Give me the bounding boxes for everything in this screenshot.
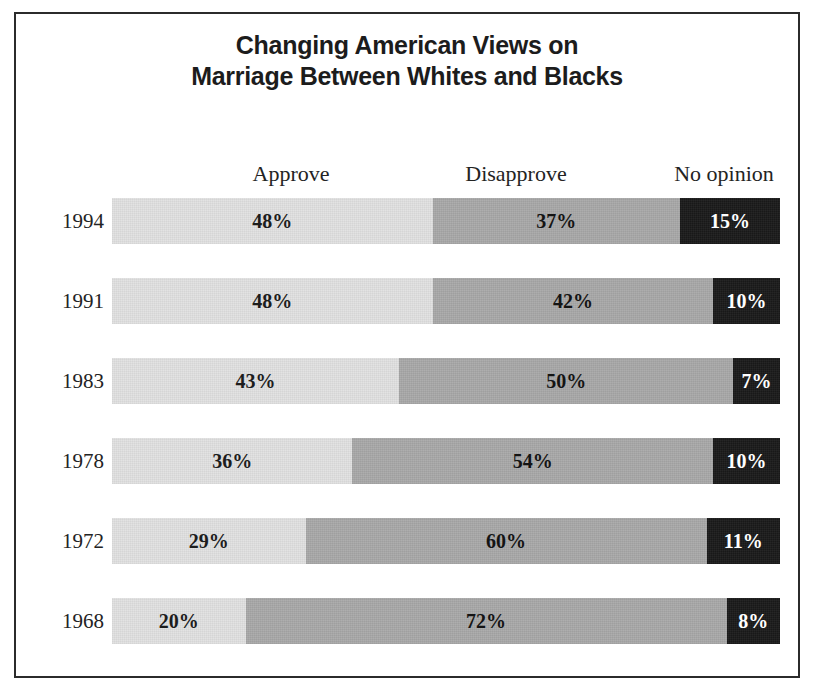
bar-segment-approve: 36%: [112, 438, 352, 484]
bar-value-label: 10%: [727, 450, 767, 473]
stacked-bar: 43%50%7%: [112, 358, 780, 404]
bar-segment-approve: 43%: [112, 358, 399, 404]
stacked-bar: 48%42%10%: [112, 278, 780, 324]
row-label-year: 1994: [28, 198, 104, 244]
bar-value-label: 37%: [536, 210, 576, 233]
bar-row: 197836%54%10%: [16, 438, 802, 484]
row-label-year: 1983: [28, 358, 104, 404]
row-label-year: 1991: [28, 278, 104, 324]
bar-row: 197229%60%11%: [16, 518, 802, 564]
bar-value-label: 29%: [189, 530, 229, 553]
bar-segment-no-opinion: 10%: [713, 438, 780, 484]
stacked-bar: 29%60%11%: [112, 518, 780, 564]
bar-value-label: 48%: [252, 290, 292, 313]
bar-segment-no-opinion: 11%: [707, 518, 780, 564]
bar-value-label: 36%: [212, 450, 252, 473]
bar-segment-no-opinion: 15%: [680, 198, 780, 244]
bar-value-label: 50%: [546, 370, 586, 393]
bar-segment-disapprove: 42%: [433, 278, 714, 324]
bar-value-label: 11%: [724, 530, 763, 553]
row-label-year: 1978: [28, 438, 104, 484]
bar-segment-disapprove: 60%: [306, 518, 707, 564]
bar-segment-no-opinion: 7%: [733, 358, 780, 404]
bar-value-label: 54%: [513, 450, 553, 473]
bar-segment-no-opinion: 8%: [727, 598, 780, 644]
chart-frame: Changing American Views on Marriage Betw…: [14, 12, 800, 678]
stacked-bar: 20%72%8%: [112, 598, 780, 644]
plot-area: 199448%37%15%199148%42%10%198343%50%7%19…: [16, 14, 802, 680]
bar-row: 198343%50%7%: [16, 358, 802, 404]
bar-segment-no-opinion: 10%: [713, 278, 780, 324]
bar-value-label: 20%: [159, 610, 199, 633]
row-label-year: 1972: [28, 518, 104, 564]
bar-row: 199148%42%10%: [16, 278, 802, 324]
bar-value-label: 42%: [553, 290, 593, 313]
bar-value-label: 48%: [252, 210, 292, 233]
bar-segment-approve: 48%: [112, 278, 433, 324]
bar-value-label: 72%: [466, 610, 506, 633]
bar-segment-disapprove: 50%: [399, 358, 733, 404]
bar-value-label: 15%: [710, 210, 750, 233]
row-label-year: 1968: [28, 598, 104, 644]
bar-segment-approve: 29%: [112, 518, 306, 564]
bar-value-label: 8%: [738, 610, 768, 633]
bar-row: 199448%37%15%: [16, 198, 802, 244]
bar-value-label: 60%: [486, 530, 526, 553]
bar-segment-disapprove: 72%: [246, 598, 727, 644]
bar-value-label: 10%: [727, 290, 767, 313]
bar-row: 196820%72%8%: [16, 598, 802, 644]
stacked-bar: 48%37%15%: [112, 198, 780, 244]
bar-segment-disapprove: 37%: [433, 198, 680, 244]
bar-segment-approve: 20%: [112, 598, 246, 644]
bar-segment-approve: 48%: [112, 198, 433, 244]
stacked-bar: 36%54%10%: [112, 438, 780, 484]
bar-value-label: 7%: [742, 370, 772, 393]
bar-segment-disapprove: 54%: [352, 438, 713, 484]
bar-value-label: 43%: [236, 370, 276, 393]
